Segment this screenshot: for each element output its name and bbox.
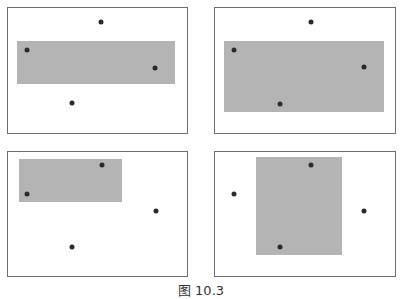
point-marker — [100, 163, 105, 168]
bounding-rectangle — [17, 41, 175, 84]
point-marker — [25, 192, 30, 197]
bounding-rectangle — [256, 157, 342, 255]
point-marker — [70, 245, 75, 250]
bounding-rectangle — [19, 159, 122, 202]
point-marker — [154, 209, 159, 214]
point-marker — [309, 163, 314, 168]
figure-caption: 图 10.3 — [0, 283, 402, 299]
point-marker — [99, 20, 104, 25]
point-marker — [232, 48, 237, 53]
point-marker — [362, 209, 367, 214]
point-marker — [309, 20, 314, 25]
bounding-rectangle — [224, 41, 384, 112]
point-marker — [153, 66, 158, 71]
point-marker — [278, 102, 283, 107]
point-marker — [70, 101, 75, 106]
point-marker — [232, 192, 237, 197]
point-marker — [362, 65, 367, 70]
point-marker — [278, 245, 283, 250]
point-marker — [25, 48, 30, 53]
